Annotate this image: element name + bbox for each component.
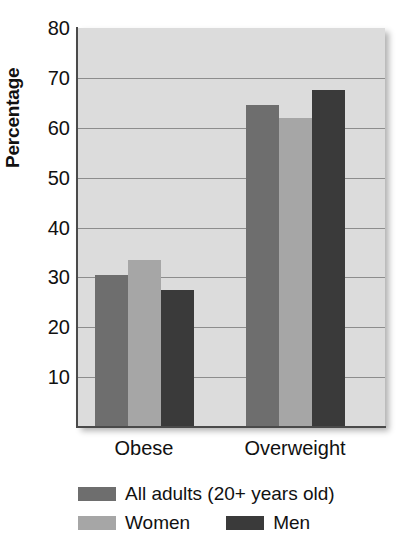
chart-legend: All adults (20+ years old) Women Men [78, 479, 393, 537]
bar-overweight-series-2 [279, 118, 312, 427]
legend-label-all-adults: All adults (20+ years old) [125, 484, 335, 503]
y-tick-label-50: 50 [26, 168, 70, 188]
legend-swatch-women [78, 516, 116, 530]
legend-entry-all-adults: All adults (20+ years old) [78, 484, 335, 503]
bar-obese-series-3 [161, 290, 194, 427]
y-tick-label-60: 60 [26, 118, 70, 138]
y-tick-label-20: 20 [26, 317, 70, 337]
legend-entry-men: Men [226, 513, 310, 532]
y-tick-label-40: 40 [26, 218, 70, 238]
y-tick-label-80: 80 [26, 18, 70, 38]
x-category-label-obese: Obese [64, 437, 224, 460]
x-axis-line [76, 426, 386, 428]
y-tick-label-10: 10 [26, 367, 70, 387]
legend-label-women: Women [125, 513, 190, 532]
bar-chart-figure: Percentage 1020304050607080 ObeseOverwei… [0, 0, 401, 547]
legend-entry-women: Women [78, 513, 190, 532]
bar-obese-series-1 [95, 275, 128, 427]
legend-swatch-all-adults [78, 487, 116, 501]
plot-area [77, 28, 385, 427]
bar-overweight-series-1 [246, 105, 279, 427]
bar-obese-series-2 [128, 260, 161, 427]
bar-overweight-series-3 [312, 90, 345, 427]
gridline-70 [77, 78, 385, 79]
y-tick-label-30: 30 [26, 267, 70, 287]
legend-row-1: All adults (20+ years old) [78, 479, 393, 508]
legend-swatch-men [226, 516, 264, 530]
legend-row-2: Women Men [78, 508, 393, 537]
y-tick-label-70: 70 [26, 68, 70, 88]
y-axis-line [76, 27, 78, 428]
x-category-label-overweight: Overweight [215, 437, 375, 460]
legend-label-men: Men [273, 513, 310, 532]
